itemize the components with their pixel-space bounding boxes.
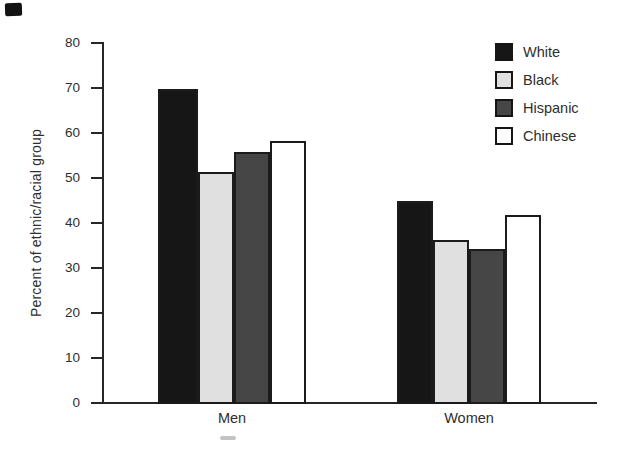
y-tick-label: 20 [46,305,80,320]
y-tick-label: 70 [46,80,80,95]
bar-black-women [433,240,469,404]
y-tick [91,222,103,224]
scan-artifact-blob [5,3,22,17]
y-tick-label: 80 [46,35,80,50]
bar-black-men [198,172,234,404]
y-tick-label: 60 [46,125,80,140]
y-tick [91,357,103,359]
bar-hispanic-women [469,249,505,404]
y-tick [91,402,103,404]
legend-label-black: Black [523,71,558,89]
legend-swatch-chinese [495,127,513,145]
bar-white-men [158,89,198,404]
y-tick [91,267,103,269]
bar-chinese-women [505,215,541,404]
y-tick [91,312,103,314]
y-tick [91,177,103,179]
y-tick [91,132,103,134]
print-artifact-smudge [220,436,236,440]
y-tick-label: 0 [46,395,80,410]
bar-hispanic-men [234,152,270,404]
legend-swatch-black [495,71,513,89]
x-axis-label-men: Men [218,410,246,426]
y-tick-label: 30 [46,260,80,275]
bar-white-women [397,201,433,404]
chart-canvas: Percent of ethnic/racial group 010203040… [0,0,617,463]
legend-label-hispanic: Hispanic [523,99,579,117]
bar-chinese-men [270,141,306,404]
legend-label-white: White [523,43,560,61]
y-axis-title: Percent of ethnic/racial group [28,129,44,317]
y-tick [91,87,103,89]
y-tick-label: 10 [46,350,80,365]
legend-label-chinese: Chinese [523,127,576,145]
legend-swatch-hispanic [495,99,513,117]
x-axis-label-women: Women [444,410,494,426]
y-tick-label: 40 [46,215,80,230]
y-tick [91,42,103,44]
y-tick-label: 50 [46,170,80,185]
legend-swatch-white [495,43,513,61]
